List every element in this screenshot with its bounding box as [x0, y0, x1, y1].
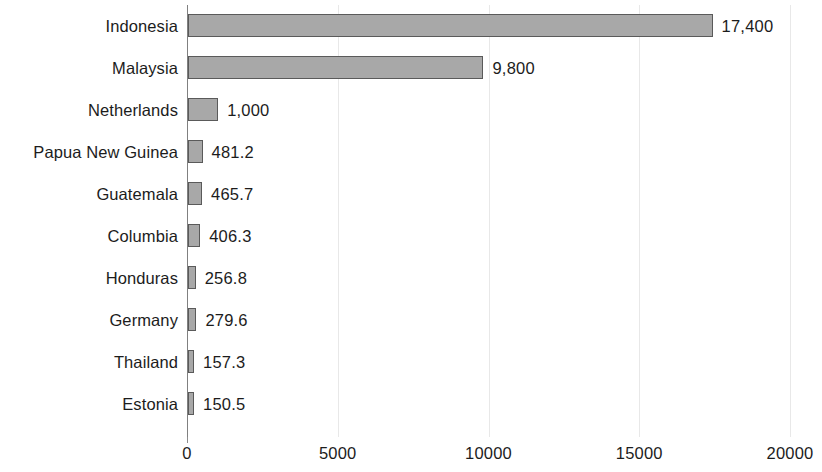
bar[interactable]	[188, 56, 483, 79]
bar-chart: Indonesia17,400Malaysia9,800Netherlands1…	[0, 0, 822, 472]
bar[interactable]	[188, 308, 196, 331]
bar-value-label: 481.2	[212, 131, 254, 173]
category-label: Malaysia	[112, 47, 178, 89]
category-label: Thailand	[114, 341, 178, 383]
bar-value-label: 279.6	[205, 299, 247, 341]
bar-value-label: 150.5	[203, 383, 245, 425]
bar-value-label: 9,800	[492, 47, 534, 89]
bar-row: Estonia150.5	[0, 383, 822, 425]
category-label: Papua New Guinea	[33, 131, 178, 173]
bar[interactable]	[188, 350, 194, 373]
category-label: Netherlands	[88, 89, 178, 131]
x-tick-label: 20000	[767, 444, 814, 463]
bar[interactable]	[188, 392, 194, 415]
bar-value-label: 1,000	[227, 89, 269, 131]
bar-value-label: 406.3	[209, 215, 251, 257]
bar[interactable]	[188, 266, 196, 289]
bar-row: Germany279.6	[0, 299, 822, 341]
bar-row: Columbia406.3	[0, 215, 822, 257]
x-tick-label: 15000	[616, 444, 663, 463]
bar[interactable]	[188, 224, 200, 247]
bar-row: Netherlands1,000	[0, 89, 822, 131]
bar[interactable]	[188, 14, 713, 37]
bar-row: Honduras256.8	[0, 257, 822, 299]
bar-row: Papua New Guinea481.2	[0, 131, 822, 173]
bar[interactable]	[188, 140, 203, 163]
bar-value-label: 17,400	[722, 5, 774, 47]
x-tick-mark-0	[187, 437, 188, 443]
x-tick-label: 10000	[465, 444, 512, 463]
bar-row: Malaysia9,800	[0, 47, 822, 89]
category-label: Honduras	[106, 257, 178, 299]
x-tick-label: 0	[182, 444, 191, 463]
bar-row: Thailand157.3	[0, 341, 822, 383]
bar-row: Guatemala465.7	[0, 173, 822, 215]
category-label: Columbia	[108, 215, 179, 257]
category-label: Guatemala	[96, 173, 178, 215]
category-label: Indonesia	[106, 5, 178, 47]
bar-value-label: 256.8	[205, 257, 247, 299]
bar[interactable]	[188, 98, 218, 121]
bar-row: Indonesia17,400	[0, 5, 822, 47]
x-tick-label: 5000	[319, 444, 357, 463]
bar-value-label: 465.7	[211, 173, 253, 215]
value-axis-line	[187, 5, 188, 437]
bar[interactable]	[188, 182, 202, 205]
category-label: Estonia	[122, 383, 178, 425]
category-label: Germany	[109, 299, 178, 341]
bar-value-label: 157.3	[203, 341, 245, 383]
